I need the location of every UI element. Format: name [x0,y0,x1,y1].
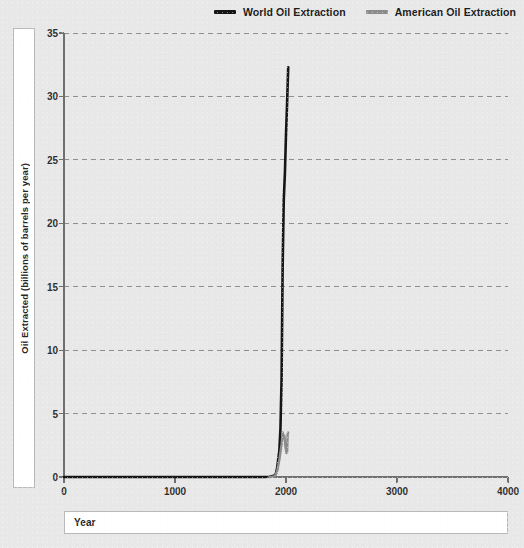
y-axis-title-box: Oil Extracted (billions of barrels per y… [13,28,35,488]
plot-area [64,33,508,477]
x-axis-title-box[interactable]: Year [64,511,508,534]
legend-label-american: American Oil Extraction [395,6,516,18]
y-tick-label: 15 [47,281,58,292]
y-axis-tick-labels: 05101520253035 [36,33,58,477]
x-tick-label: 4000 [497,486,519,497]
series-line-world [64,67,288,477]
legend-item-american: American Oil Extraction [366,6,516,18]
y-tick-label: 0 [52,472,58,483]
line-swatch-icon [214,10,236,14]
x-tick-label: 3000 [386,486,408,497]
y-tick-label: 35 [47,28,58,39]
plot-svg [64,33,508,477]
y-tick-label: 5 [52,408,58,419]
y-tick-label: 20 [47,218,58,229]
x-tick-label: 1000 [164,486,186,497]
x-tick-label: 2000 [275,486,297,497]
data-series [64,67,288,477]
y-tick-label: 25 [47,154,58,165]
x-axis-title: Year [65,517,96,528]
y-tick-label: 10 [47,345,58,356]
y-tick-label: 30 [47,91,58,102]
x-tick-label: 0 [61,486,67,497]
legend-label-world: World Oil Extraction [243,6,346,18]
oil-extraction-chart: World Oil Extraction American Oil Extrac… [0,0,524,548]
gridlines [64,33,508,414]
legend-item-world: World Oil Extraction [214,6,346,18]
x-axis-tick-labels: 01000200030004000 [64,486,508,500]
y-axis-title: Oil Extracted (billions of barrels per y… [19,163,30,354]
line-swatch-icon [366,10,388,14]
chart-legend: World Oil Extraction American Oil Extrac… [0,6,516,18]
